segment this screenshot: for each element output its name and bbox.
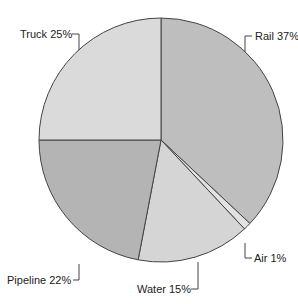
pipeline-label: Pipeline 22% — [7, 274, 71, 286]
water-leader-line — [191, 262, 198, 289]
air-label: Air 1% — [254, 252, 287, 264]
rail-label: Rail 37% — [255, 30, 298, 42]
pie-slices — [39, 18, 283, 262]
water-label: Water 15% — [137, 283, 191, 295]
truck-leader-line — [72, 34, 79, 50]
pipeline-leader-line — [73, 264, 79, 280]
truck-label: Truck 25% — [20, 28, 72, 40]
rail-leader-line — [245, 36, 252, 52]
pie-chart: Truck 25% Rail 37% Air 1% Water 15% Pipe… — [0, 0, 298, 304]
